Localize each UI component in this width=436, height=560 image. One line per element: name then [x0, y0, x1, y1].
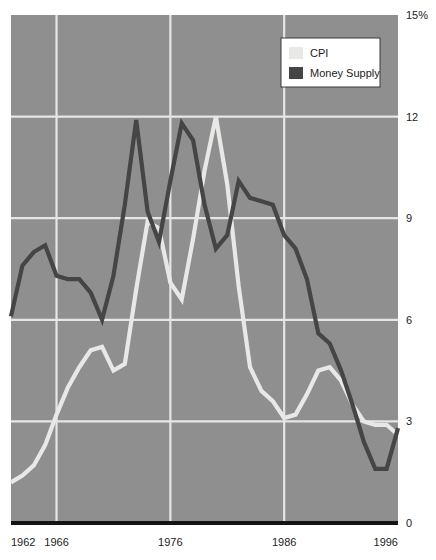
chart-canvas: 03691215% 19621966197619861996 CPI Money…	[0, 0, 436, 560]
y-tick-label-0: 0	[406, 517, 412, 529]
x-axis-baseline	[11, 521, 398, 525]
legend-label-money-supply: Money Supply	[310, 67, 380, 79]
inflation-money-supply-chart: 03691215% 19621966197619861996 CPI Money…	[0, 0, 436, 560]
plot-area-background	[11, 15, 398, 523]
legend-label-cpi: CPI	[310, 47, 328, 59]
y-tick-label-3: 3	[406, 415, 412, 427]
x-tick-label-1962: 1962	[11, 536, 35, 548]
legend-swatch-cpi	[289, 47, 303, 59]
y-tick-label-9: 9	[406, 212, 412, 224]
x-tick-label-1976: 1976	[158, 536, 182, 548]
x-tick-label-1986: 1986	[272, 536, 296, 548]
y-tick-label-12: 12	[406, 111, 418, 123]
chart-legend: CPI Money Supply	[281, 38, 380, 87]
x-tick-label-1966: 1966	[44, 536, 68, 548]
legend-swatch-money-supply	[289, 67, 303, 79]
y-tick-label-15: 15%	[406, 9, 428, 21]
x-tick-label-1996: 1996	[374, 536, 398, 548]
y-tick-label-6: 6	[406, 314, 412, 326]
legend-box	[281, 38, 380, 87]
